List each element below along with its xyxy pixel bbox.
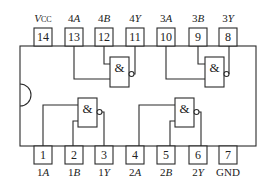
pin-12-number: 12 — [98, 30, 110, 44]
ic-pinout-diagram: 14 13 12 11 10 9 8 VCC 4A 4B 4Y 3A 3B 3Y… — [0, 0, 272, 179]
pin-13-label: 4A — [68, 12, 81, 24]
pin-11-number: 11 — [129, 30, 141, 44]
gate-1-inverter-bubble — [97, 110, 102, 115]
pin-1-number: 1 — [40, 148, 46, 162]
gate-1-wire-1Y — [102, 112, 104, 146]
pin-8-label: 3Y — [222, 12, 236, 24]
gate-4-wire-4B — [104, 46, 110, 64]
gate-2-wire-2Y — [199, 112, 201, 146]
bottom-pin-labels: 1A 1B 1Y 2A 2B 2Y GND — [37, 166, 240, 178]
pin-11-label: 4Y — [129, 12, 143, 24]
bottom-pins: 1 2 3 4 5 6 7 — [34, 146, 237, 164]
gate-3: & — [166, 46, 229, 87]
gate-2-symbol: & — [179, 101, 189, 116]
pin-7-number: 7 — [225, 148, 231, 162]
pin-2-label: 1B — [68, 166, 81, 178]
gate-3-symbol: & — [209, 60, 219, 75]
gate-1-wire-1B — [73, 121, 78, 146]
gate-1-symbol: & — [82, 101, 92, 116]
gate-4-inverter-bubble — [129, 72, 134, 77]
pin-14-number: 14 — [37, 30, 49, 44]
gate-4-wire-4Y — [134, 46, 135, 74]
gate-4: & — [74, 46, 135, 87]
pin-13-number: 13 — [68, 30, 80, 44]
gate-3-inverter-bubble — [224, 72, 229, 77]
top-pins: 14 13 12 11 10 9 8 — [34, 28, 237, 46]
gate-2-inverter-bubble — [194, 110, 199, 115]
pin-5-number: 5 — [163, 148, 169, 162]
pin-2-number: 2 — [71, 148, 77, 162]
gate-2: & — [139, 98, 201, 146]
pin-10-number: 10 — [160, 30, 172, 44]
pin-9-number: 9 — [195, 30, 201, 44]
chip-notch — [20, 84, 31, 106]
pin-6-label: 2Y — [192, 166, 206, 178]
pin-3-label: 1Y — [98, 166, 112, 178]
pin-14-label: VCC — [34, 12, 51, 24]
gate-4-symbol: & — [114, 60, 124, 75]
pin-3-number: 3 — [101, 148, 107, 162]
pin-10-label: 3A — [160, 12, 173, 24]
pin-9-label: 3B — [192, 12, 205, 24]
pin-6-number: 6 — [195, 148, 201, 162]
top-pin-labels: VCC 4A 4B 4Y 3A 3B 3Y — [34, 12, 235, 24]
pin-4-label: 2A — [129, 166, 142, 178]
pin-5-label: 2B — [160, 166, 173, 178]
gate-3-wire-3A — [166, 46, 205, 79]
gate-3-wire-3B — [198, 46, 205, 64]
pin-7-label: GND — [216, 166, 240, 178]
pin-8-number: 8 — [225, 30, 231, 44]
pin-4-number: 4 — [132, 148, 138, 162]
gate-1: & — [43, 98, 104, 146]
gate-4-wire-4A — [74, 46, 110, 79]
pin-12-label: 4B — [98, 12, 111, 24]
pin-1-label: 1A — [37, 166, 50, 178]
gate-2-wire-2B — [170, 121, 175, 146]
